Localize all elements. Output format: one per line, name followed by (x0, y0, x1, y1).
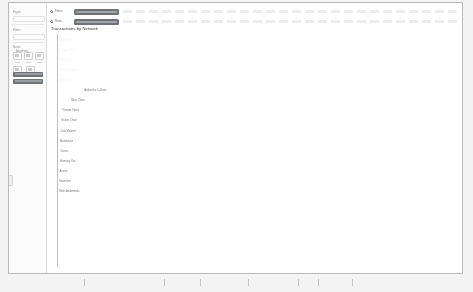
shelf-row-label: Rows (55, 20, 62, 23)
ruler-tick (164, 279, 165, 286)
bar-label: Gnosis Chain (61, 119, 77, 122)
sidebar-divider-2 (12, 42, 44, 43)
bar-row[interactable]: Moonriver (57, 177, 58, 187)
marks-button-row: Color Size Label (13, 52, 44, 64)
bar-row[interactable]: BNB Chain (57, 56, 199, 66)
bar-label: Harmony One (60, 160, 76, 163)
marks-button-label: Size (24, 61, 33, 64)
shelf-row-columns: Filters (50, 8, 458, 16)
marks-button-size[interactable]: Size (24, 52, 33, 64)
bar-label: Avalanche C-Chain (84, 89, 106, 92)
shelf-row-label: Filters (55, 10, 62, 13)
bar-row[interactable]: Base Chain (57, 96, 70, 106)
bar-label: Moonriver (59, 180, 71, 183)
bar-label: Optimism (60, 79, 71, 82)
marks-button-label: Label (35, 61, 44, 64)
bar-label: Metis Andromeda (59, 190, 79, 193)
bar-row[interactable]: Optimism (57, 76, 136, 86)
bar-label: Fantom Opera (62, 109, 79, 112)
shelf-empty-area[interactable] (123, 10, 458, 13)
radio-icon[interactable] (50, 10, 53, 13)
bar-row[interactable]: Metis Andromeda (57, 187, 58, 197)
bar-row[interactable]: Ethereum (57, 36, 444, 46)
ruler-tick (248, 279, 249, 286)
marks-pill-measure[interactable] (13, 72, 43, 77)
filters-shelf[interactable] (13, 34, 45, 40)
sidebar-collapse-handle[interactable] (8, 175, 13, 186)
marks-pill-dimension[interactable] (13, 79, 43, 84)
left-sidebar: Pages Filters Marks Automatic Color Size (9, 3, 47, 273)
bar-row[interactable]: Fantom Opera (57, 106, 61, 116)
size-icon (24, 52, 33, 60)
marks-button-color[interactable]: Color (13, 52, 22, 64)
bar-row[interactable]: Gnosis Chain (57, 116, 60, 126)
shelf-rows: Filters Rows (50, 8, 458, 28)
bar-row[interactable]: Harmony One (57, 157, 58, 167)
shelf-pill-dimension-label (76, 21, 117, 24)
bar-row[interactable]: Aurora (57, 167, 58, 177)
bar-label: Base Chain (71, 99, 84, 102)
color-icon (13, 52, 22, 60)
app-window: Pages Filters Marks Automatic Color Size (8, 2, 463, 274)
sidebar-section-filters: Filters (13, 29, 21, 32)
label-icon (35, 52, 44, 60)
bar-label: Ethereum (60, 39, 72, 42)
shelf-empty-area[interactable] (123, 20, 458, 23)
bar-row[interactable]: Polygon POS (57, 46, 341, 56)
ruler-tick (318, 279, 319, 286)
bar-row[interactable]: Cronos (57, 147, 58, 157)
pages-shelf[interactable] (13, 16, 45, 22)
bar-label: Arbitrum One (60, 69, 76, 72)
ruler-tick (200, 279, 201, 286)
page-ruler (0, 279, 473, 292)
bar-label: Cronos (60, 150, 68, 153)
sidebar-section-marks: Marks (13, 46, 21, 49)
bar-label: Moonbeam (60, 140, 73, 143)
bar-label: Polygon POS (60, 49, 76, 52)
marks-button-label-btn[interactable]: Label (35, 52, 44, 64)
radio-icon[interactable] (50, 20, 53, 23)
main-panel: Filters Rows Transactions by Network (47, 3, 462, 273)
sidebar-section-pages: Pages (13, 11, 21, 14)
shelf-pill-measure-label (76, 11, 117, 14)
bar-row[interactable]: Celo Mainnet (57, 126, 59, 136)
marks-button-label: Color (13, 61, 22, 64)
chart-title: Transactions by Network (51, 26, 98, 31)
marks-pill-dimension-label (15, 80, 42, 82)
bar-chart-plot: EthereumPolygon POSBNB ChainArbitrum One… (51, 34, 459, 267)
bar-label: Aurora (59, 170, 67, 173)
bar-row[interactable]: Arbitrum One (57, 66, 164, 76)
shelf-pill-measure[interactable] (74, 9, 119, 15)
bar-row[interactable]: Avalanche C-Chain (57, 86, 83, 96)
ruler-tick (352, 279, 353, 286)
bar-label: BNB Chain (60, 59, 73, 62)
ruler-tick (84, 279, 85, 286)
marks-pill-measure-label (15, 73, 42, 75)
sidebar-divider-1 (12, 24, 44, 25)
shelf-pill-dimension[interactable] (74, 19, 119, 25)
shelf-row-rows: Rows (50, 18, 458, 26)
bar-label: Celo Mainnet (60, 130, 75, 133)
ruler-tick (298, 279, 299, 286)
screenshot-root: Pages Filters Marks Automatic Color Size (0, 0, 473, 292)
bar-row[interactable]: Moonbeam (57, 137, 59, 147)
